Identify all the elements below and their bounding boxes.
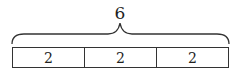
tape-segment: 2 [157,48,228,67]
tape-segment: 2 [85,48,157,67]
tape-bar: 2 2 2 [12,47,229,68]
tape-segment: 2 [13,48,85,67]
